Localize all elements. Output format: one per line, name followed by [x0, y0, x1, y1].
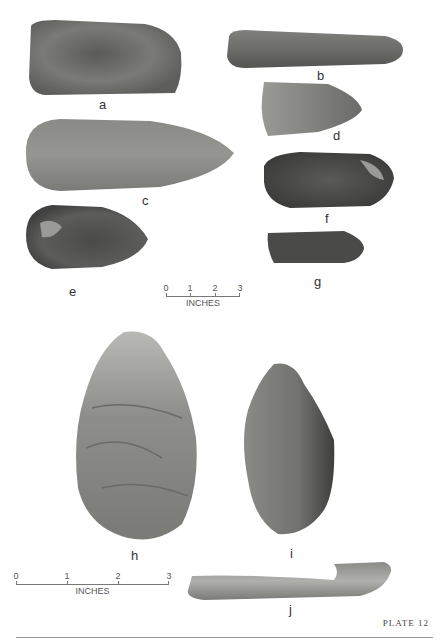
artifact-g-image: [264, 229, 368, 265]
artifact-i-image: [238, 360, 338, 538]
artifact-d-image: [258, 78, 368, 138]
scale-unit-label: INCHES: [166, 298, 240, 308]
scale-bar-bottom: 0 1 2 3 INCHES: [16, 571, 169, 601]
scale-unit-label: INCHES: [16, 586, 169, 596]
artifact-j-label: j: [289, 602, 292, 617]
artifact-a-image: [25, 18, 185, 98]
scale-tick-label: 3: [237, 283, 242, 293]
scale-tick-label: 3: [166, 571, 171, 581]
artifact-b-image: [225, 28, 405, 70]
artifact-j-image: [184, 558, 396, 600]
scale-tick-label: 0: [163, 283, 168, 293]
artifact-a-label: a: [99, 97, 106, 112]
scale-tick-label: 1: [187, 283, 192, 293]
artifact-e-image: [22, 201, 152, 273]
footer-rule: [16, 637, 433, 638]
artifact-h-label: h: [131, 548, 138, 563]
scale-tick-label: 2: [212, 283, 217, 293]
artifact-f-image: [260, 150, 396, 210]
artifact-h-image: [72, 328, 204, 544]
scale-bar-top: 0 1 2 3 INCHES: [166, 283, 240, 311]
artifact-f-label: f: [325, 211, 329, 226]
plate-number: PLATE 12: [383, 618, 429, 628]
artifact-e-label: e: [69, 284, 76, 299]
scale-tick-label: 1: [64, 571, 69, 581]
artifact-c-image: [20, 115, 240, 195]
scale-tick-label: 2: [115, 571, 120, 581]
scale-tick-label: 0: [13, 571, 18, 581]
artifact-g-label: g: [314, 274, 321, 289]
artifact-d-label: d: [333, 128, 340, 143]
